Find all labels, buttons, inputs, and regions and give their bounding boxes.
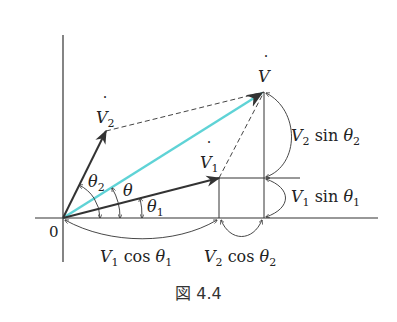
label-v2-cos: V2 cos θ2 bbox=[204, 247, 276, 269]
label-theta1: θ1 bbox=[147, 197, 164, 219]
label-theta: θ bbox=[123, 181, 133, 200]
label-v1-dot: ˙ bbox=[205, 139, 213, 158]
theta1-arc bbox=[140, 198, 142, 218]
label-v1-sin: V1 sin θ1 bbox=[291, 187, 360, 209]
vector-v1 bbox=[63, 178, 219, 218]
dashed-v2-to-v bbox=[106, 92, 264, 131]
figure-caption: 図 4.4 bbox=[0, 280, 397, 304]
v1-cos-arc bbox=[65, 220, 217, 239]
label-v2-sin: V2 sin θ2 bbox=[291, 126, 360, 148]
label-v1-cos: V1 cos θ1 bbox=[100, 247, 172, 269]
v2-sin-arc bbox=[266, 93, 292, 177]
label-v2-dot: ˙ bbox=[101, 94, 109, 113]
label-theta2: θ2 bbox=[88, 172, 105, 194]
label-v-dot: ˙ bbox=[262, 53, 270, 72]
v1-sin-arc bbox=[266, 179, 286, 217]
origin-label: 0 bbox=[49, 223, 59, 241]
v2-cos-arc bbox=[221, 220, 262, 237]
phasor-diagram: V ˙ V2 ˙ V1 ˙ θ2 θ θ1 0 V2 sin θ2 V1 sin… bbox=[0, 0, 397, 322]
